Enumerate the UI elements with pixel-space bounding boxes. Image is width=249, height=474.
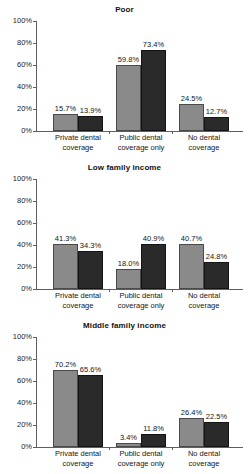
bar	[78, 375, 103, 447]
y-axis-tick	[33, 21, 36, 22]
y-tick-label: 80%	[4, 39, 32, 47]
bar	[116, 269, 141, 289]
y-tick-label: 60%	[4, 61, 32, 69]
y-tick-label: 60%	[4, 219, 32, 227]
y-tick-label: 40%	[4, 399, 32, 407]
bar	[141, 50, 166, 131]
y-axis-tick-labels: 100%80%60%40%20%0%	[2, 179, 32, 289]
bar-value-label: 40.7%	[174, 235, 209, 243]
y-axis-tick-labels: 100%80%60%40%20%0%	[2, 21, 32, 131]
bar	[204, 117, 229, 131]
chart-panel-middle-family-income: Middle family income 100%80%60%40%20%0% …	[0, 316, 249, 474]
y-axis-tick	[33, 267, 36, 268]
y-axis-tick	[33, 43, 36, 44]
y-tick-label: 100%	[4, 333, 32, 341]
x-category-label: No dental coverage	[166, 291, 242, 310]
chart-title: Poor	[0, 5, 249, 14]
bar	[78, 251, 103, 289]
y-tick-label: 0%	[4, 285, 32, 293]
y-tick-label: 40%	[4, 241, 32, 249]
y-axis-tick-labels: 100%80%60%40%20%0%	[2, 337, 32, 447]
bar	[141, 244, 166, 289]
y-axis-line	[36, 179, 37, 289]
bar	[116, 65, 141, 131]
y-tick-label: 0%	[4, 127, 32, 135]
bar-value-label: 24.5%	[174, 95, 209, 103]
y-axis-tick	[33, 447, 36, 448]
chart-panel-low-family-income: Low family income 100%80%60%40%20%0% 41.…	[0, 158, 249, 316]
y-axis-tick	[33, 381, 36, 382]
bar	[179, 244, 204, 289]
bar-value-label: 24.8%	[199, 253, 234, 261]
bar	[204, 422, 229, 447]
y-axis-line	[36, 21, 37, 131]
y-axis-tick	[33, 403, 36, 404]
y-tick-label: 80%	[4, 197, 32, 205]
chart-title: Middle family income	[0, 321, 249, 330]
y-axis-tick	[33, 87, 36, 88]
y-axis-tick	[33, 201, 36, 202]
plot-area: 70.2%65.6%3.4%11.8%26.4%22.5%	[36, 337, 243, 447]
bar	[78, 116, 103, 131]
bar	[53, 370, 78, 447]
figure-panel-stack: Poor 100%80%60%40%20%0% 15.7%13.9%59.8%7…	[0, 0, 249, 474]
y-axis-tick	[33, 245, 36, 246]
y-tick-label: 100%	[4, 175, 32, 183]
y-axis-tick	[33, 223, 36, 224]
x-axis-category-labels: Private dental coveragePublic dental cov…	[36, 449, 243, 473]
bar	[204, 262, 229, 289]
y-tick-label: 20%	[4, 263, 32, 271]
x-axis-line	[36, 289, 243, 290]
bar-value-label: 73.4%	[136, 41, 171, 49]
bar-value-label: 22.5%	[199, 413, 234, 421]
bar-value-label: 65.6%	[73, 366, 108, 374]
y-tick-label: 0%	[4, 443, 32, 451]
bar	[53, 244, 78, 289]
chart-title: Low family income	[0, 163, 249, 172]
bar-value-label: 40.9%	[136, 235, 171, 243]
bar-value-label: 12.7%	[199, 108, 234, 116]
x-axis-category-labels: Private dental coveragePublic dental cov…	[36, 291, 243, 315]
y-tick-label: 40%	[4, 83, 32, 91]
y-tick-label: 20%	[4, 105, 32, 113]
x-axis-line	[36, 447, 243, 448]
plot-area: 41.3%34.3%18.0%40.9%40.7%24.8%	[36, 179, 243, 289]
y-tick-label: 80%	[4, 355, 32, 363]
x-axis-line	[36, 131, 243, 132]
bar-value-label: 13.9%	[73, 107, 108, 115]
y-axis-tick	[33, 131, 36, 132]
bar-value-label: 11.8%	[136, 425, 171, 433]
chart-panel-poor: Poor 100%80%60%40%20%0% 15.7%13.9%59.8%7…	[0, 0, 249, 158]
plot-area: 15.7%13.9%59.8%73.4%24.5%12.7%	[36, 21, 243, 131]
y-axis-line	[36, 337, 37, 447]
y-tick-label: 100%	[4, 17, 32, 25]
bar-value-label: 34.3%	[73, 242, 108, 250]
y-axis-tick	[33, 65, 36, 66]
bar	[141, 434, 166, 447]
x-category-label: No dental coverage	[166, 449, 242, 468]
bar	[53, 114, 78, 131]
y-axis-tick	[33, 289, 36, 290]
y-axis-tick	[33, 109, 36, 110]
y-axis-tick	[33, 179, 36, 180]
y-axis-tick	[33, 425, 36, 426]
y-axis-tick	[33, 337, 36, 338]
x-axis-category-labels: Private dental coveragePublic dental cov…	[36, 133, 243, 157]
y-tick-label: 60%	[4, 377, 32, 385]
x-category-label: No dental coverage	[166, 133, 242, 152]
y-tick-label: 20%	[4, 421, 32, 429]
y-axis-tick	[33, 359, 36, 360]
bar	[179, 418, 204, 447]
bar	[116, 443, 141, 447]
